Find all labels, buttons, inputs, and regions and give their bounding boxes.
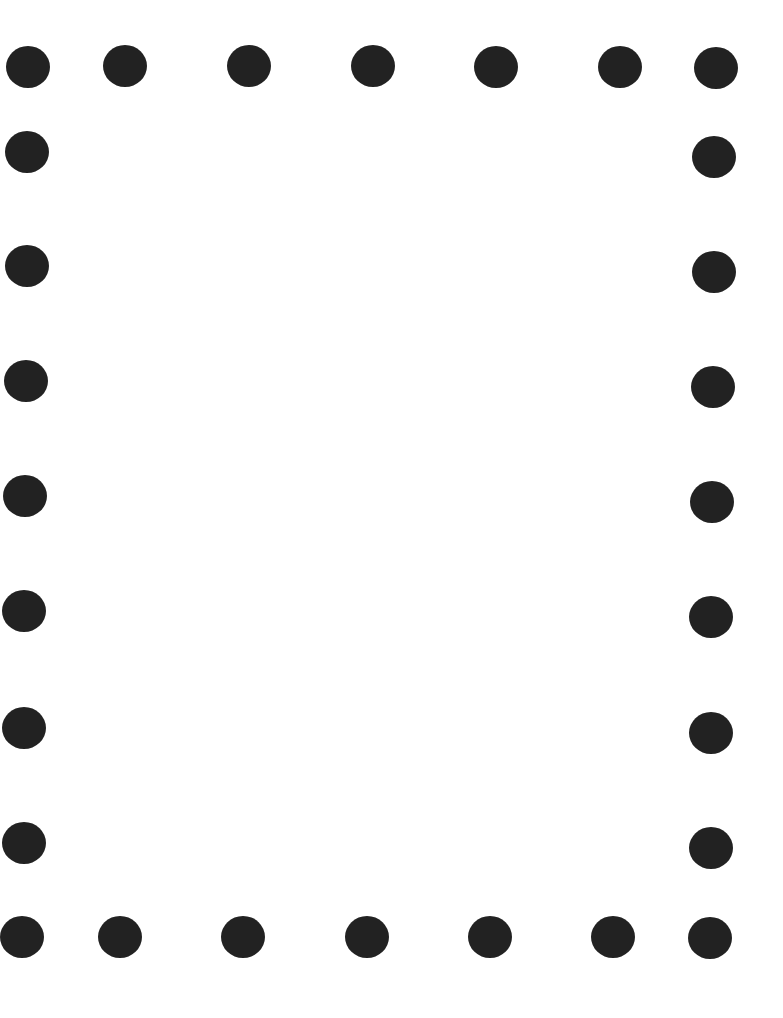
border-dot <box>345 916 389 958</box>
border-dot <box>351 45 395 87</box>
border-dot <box>689 712 733 754</box>
border-dot <box>474 46 518 88</box>
border-dot <box>2 822 46 864</box>
border-dot <box>694 47 738 89</box>
border-dot <box>3 475 47 517</box>
border-dot <box>690 481 734 523</box>
border-dot <box>692 136 736 178</box>
border-dot <box>2 707 46 749</box>
border-dot <box>5 131 49 173</box>
border-dot <box>0 916 44 958</box>
border-dot <box>4 360 48 402</box>
border-dot <box>98 916 142 958</box>
border-dot <box>5 245 49 287</box>
border-dot <box>688 917 732 959</box>
border-dot <box>692 251 736 293</box>
border-dot <box>598 46 642 88</box>
border-dot <box>591 916 635 958</box>
border-dot <box>221 916 265 958</box>
border-dot <box>227 45 271 87</box>
border-dot <box>691 366 735 408</box>
border-dot <box>689 596 733 638</box>
border-dot <box>103 45 147 87</box>
border-dot <box>6 46 50 88</box>
border-dot <box>468 916 512 958</box>
border-dot <box>689 827 733 869</box>
border-dot <box>2 590 46 632</box>
